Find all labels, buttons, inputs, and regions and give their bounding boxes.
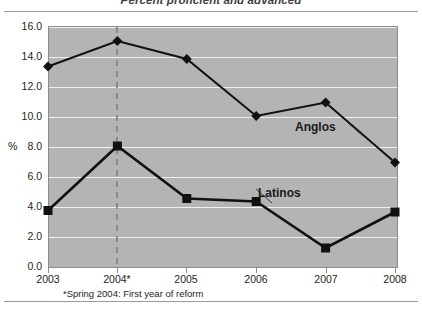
chart-figure: Percent proficient and advanced 16.0 14.… bbox=[0, 0, 422, 311]
anglos-data-point bbox=[43, 62, 53, 72]
latinos-data-point bbox=[182, 194, 191, 203]
latinos-data-point bbox=[321, 244, 330, 253]
latinos-data-point bbox=[391, 208, 400, 217]
anglos-series-markers bbox=[43, 36, 400, 168]
anglos-leader-line bbox=[347, 122, 363, 136]
latinos-series-line bbox=[48, 146, 395, 248]
latinos-series-label: Latinos bbox=[258, 186, 301, 200]
anglos-data-point bbox=[112, 36, 122, 46]
anglos-series-label: Anglos bbox=[295, 120, 336, 134]
anglos-series-line bbox=[48, 41, 395, 163]
latinos-data-point bbox=[44, 206, 53, 215]
series-layer bbox=[0, 0, 422, 311]
latinos-series-markers bbox=[44, 142, 400, 253]
latinos-data-point bbox=[113, 142, 122, 151]
